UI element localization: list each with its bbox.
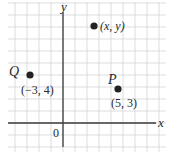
point-coords-label: (−3, 4) — [21, 83, 54, 97]
point-marker — [90, 22, 97, 29]
point-p: P(5, 3) — [107, 72, 137, 110]
origin-label: 0 — [53, 126, 59, 140]
point-coords-label: (x, y) — [100, 19, 125, 33]
point-xy: (x, y) — [90, 19, 124, 33]
coordinate-plane-svg: x y 0 Q(−3, 4)(x, y)P(5, 3) — [0, 0, 170, 154]
points: Q(−3, 4)(x, y)P(5, 3) — [9, 19, 137, 110]
point-marker — [26, 71, 33, 78]
point-q: Q(−3, 4) — [9, 64, 54, 97]
coordinate-plane-diagram: x y 0 Q(−3, 4)(x, y)P(5, 3) — [0, 0, 170, 154]
point-name-label: Q — [9, 64, 19, 79]
x-axis-label: x — [157, 115, 164, 130]
point-name-label: P — [107, 72, 117, 87]
point-coords-label: (5, 3) — [111, 96, 137, 110]
y-axis-label: y — [59, 0, 67, 14]
